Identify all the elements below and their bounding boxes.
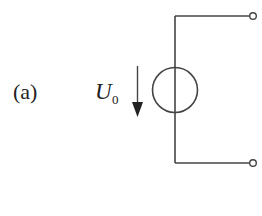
voltage-direction-arrow-icon (132, 66, 143, 117)
voltage-subscript: 0 (112, 92, 119, 107)
circuit-diagram: (a) U 0 (0, 0, 262, 216)
top-terminal-icon (250, 13, 257, 20)
voltage-symbol: U (95, 79, 113, 104)
bottom-terminal-icon (250, 160, 257, 167)
figure-label: (a) (13, 79, 37, 104)
